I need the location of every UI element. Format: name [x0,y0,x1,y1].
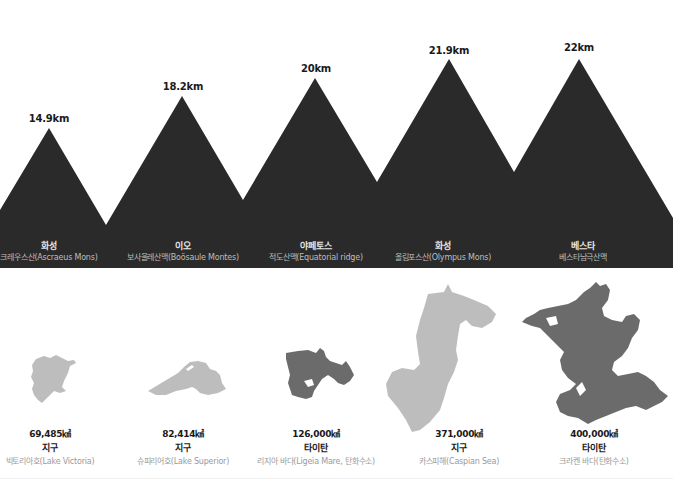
mountain-shape [0,59,673,268]
celestial-body-name: 지구 [419,441,499,455]
celestial-body-name: 베스타 [559,240,607,252]
lake-area: 82,414㎢ [137,428,229,441]
lake-caption: 400,000㎢ 타이탄 크라켄 바다(탄화수소) [559,428,628,468]
mountain-name: 적도산맥(Equatorial ridge) [269,252,363,264]
lake-superior-shape [146,357,228,399]
lake-name: 크라켄 바다(탄화수소) [559,455,628,468]
mountain-comparison: 14.9km 18.2km 20km 21.9km 22km 화성 크레우스산(… [0,0,673,275]
mountain-caption: 야페토스 적도산맥(Equatorial ridge) [269,240,363,264]
mountain-name: 보사울레산맥(Boösaule Montes) [127,252,239,264]
lake-name: 리지아 바다(Ligeia Mare, 탄화수소) [257,455,375,468]
mountain-height-label: 22km [564,42,594,53]
mountain-height-label: 21.9km [429,45,470,56]
mountain-name: 베스타남극산맥 [559,252,607,264]
mountain-height-label: 18.2km [163,81,204,92]
lake-name: 빅토리아호(Lake Victoria) [6,455,95,468]
lake-name: 카스피해(Caspian Sea) [419,455,499,468]
mountain-name: 크레우스산(Ascraeus Mons) [0,252,97,264]
bottom-divider [0,478,673,479]
celestial-body-name: 이오 [127,240,239,252]
ligeia-mare-shape [284,345,356,413]
mountain-name: 올림포스산(Olympus Mons) [395,252,491,264]
lake-area: 400,000㎢ [559,428,628,441]
mountain-height-label: 20km [301,63,331,74]
celestial-body-name: 지구 [137,441,229,455]
kraken-mare-shape [518,278,670,428]
mountain-caption: 화성 크레우스산(Ascraeus Mons) [0,240,97,264]
lake-area: 126,000㎢ [257,428,375,441]
lake-comparison: 69,485㎢ 지구 빅토리아호(Lake Victoria) 82,414㎢ … [0,275,673,490]
celestial-body-name: 화성 [395,240,491,252]
celestial-body-name: 화성 [0,240,97,252]
lake-name: 슈피리어호(Lake Superior) [137,455,229,468]
mountain-caption: 베스타 베스타남극산맥 [559,240,607,264]
celestial-body-name: 야페토스 [269,240,363,252]
lake-victoria-shape [28,353,78,409]
celestial-body-name: 지구 [6,441,95,455]
lake-area: 371,000㎢ [419,428,499,441]
celestial-body-name: 타이탄 [257,441,375,455]
lake-caption: 126,000㎢ 타이탄 리지아 바다(Ligeia Mare, 탄화수소) [257,428,375,468]
lake-area: 69,485㎢ [6,428,95,441]
caspian-sea-shape [384,280,506,435]
celestial-body-name: 타이탄 [559,441,628,455]
lake-caption: 82,414㎢ 지구 슈피리어호(Lake Superior) [137,428,229,468]
lake-caption: 371,000㎢ 지구 카스피해(Caspian Sea) [419,428,499,468]
lake-caption: 69,485㎢ 지구 빅토리아호(Lake Victoria) [6,428,95,468]
mountain-caption: 이오 보사울레산맥(Boösaule Montes) [127,240,239,264]
mountain-caption: 화성 올림포스산(Olympus Mons) [395,240,491,264]
mountain-height-label: 14.9km [29,113,70,124]
